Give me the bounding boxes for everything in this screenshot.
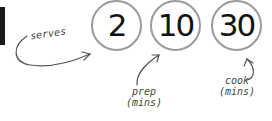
prep-label-line2: (mins) [118, 97, 170, 108]
cook-label-line1: cook [214, 75, 260, 86]
prep-label-line1: prep [118, 86, 170, 97]
cook-label: cook (mins) [214, 75, 260, 97]
serves-arrow-icon [16, 36, 90, 66]
cook-label-line2: (mins) [214, 86, 260, 97]
recipe-info-graphic: 2 10 30 serves prep (mins) cook (mins) [0, 0, 272, 121]
prep-arrow-icon [137, 55, 159, 85]
prep-label: prep (mins) [118, 86, 170, 108]
